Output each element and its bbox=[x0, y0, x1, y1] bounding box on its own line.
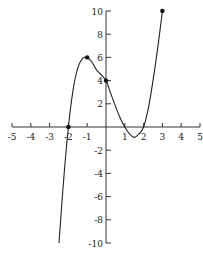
y-tick-label: -10 bbox=[89, 239, 104, 249]
x-tick-label: 5 bbox=[197, 132, 203, 142]
x-tick-label: -4 bbox=[26, 132, 35, 142]
point-marker bbox=[66, 125, 70, 129]
y-tick-label: -6 bbox=[94, 192, 103, 202]
y-tick-label: 8 bbox=[97, 30, 103, 40]
x-tick-label: 4 bbox=[178, 132, 184, 142]
x-tick-label: 3 bbox=[160, 132, 166, 142]
function-graph: -5-4-3-2-112345108642-2-4-6-8-10 bbox=[0, 0, 203, 256]
x-tick-label: -2 bbox=[64, 132, 73, 142]
y-tick-label: 10 bbox=[92, 7, 104, 17]
x-tick-label: -1 bbox=[83, 132, 92, 142]
y-tick-label: -4 bbox=[94, 169, 103, 179]
axes bbox=[12, 11, 200, 243]
point-marker bbox=[160, 9, 164, 13]
y-tick-label: -8 bbox=[94, 215, 103, 225]
y-tick-label: 6 bbox=[97, 53, 103, 63]
y-tick-label: -2 bbox=[94, 146, 103, 156]
x-tick-label: 2 bbox=[141, 132, 147, 142]
y-tick-label: 2 bbox=[97, 99, 103, 109]
marked-points bbox=[66, 9, 164, 129]
x-tick-label: -3 bbox=[45, 132, 54, 142]
x-tick-label: 1 bbox=[122, 132, 128, 142]
x-tick-label: -5 bbox=[8, 132, 17, 142]
point-marker bbox=[104, 78, 108, 82]
y-tick-label: 4 bbox=[97, 76, 103, 86]
point-marker bbox=[85, 55, 89, 59]
